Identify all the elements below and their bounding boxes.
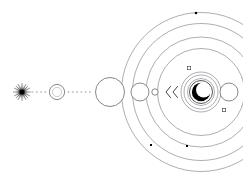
marker-upper-right-open xyxy=(187,66,190,69)
orbital-schematic-svg xyxy=(0,0,243,186)
eclipse-core xyxy=(0,0,243,186)
marker-lower-left xyxy=(150,144,152,146)
diagram-canvas xyxy=(0,0,243,186)
eclipse-crescent xyxy=(0,0,243,186)
marker-lower-right-open xyxy=(222,108,225,111)
marker-bottom xyxy=(186,145,188,147)
marker-top-outer xyxy=(195,12,197,14)
